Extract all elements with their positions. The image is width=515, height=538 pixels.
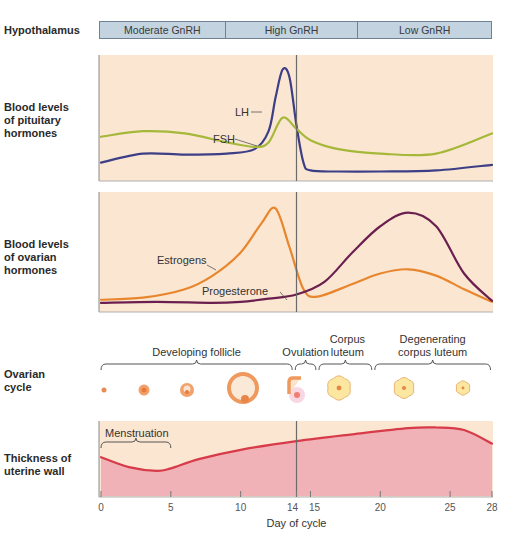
degenerating-corpus-luteum-icon bbox=[394, 377, 414, 398]
stage-label: Developing follicle bbox=[152, 346, 241, 358]
stage-label: Corpus bbox=[330, 333, 366, 345]
stage-label: Ovulation bbox=[282, 346, 328, 358]
estrogens-label: Estrogens bbox=[157, 254, 207, 266]
progesterone-label: Progesterone bbox=[202, 285, 268, 297]
stage-brace bbox=[375, 360, 491, 370]
stage-label: corpus luteum bbox=[398, 346, 467, 358]
stage-label: Degenerating bbox=[400, 333, 466, 345]
x-tick-label: 15 bbox=[309, 502, 321, 513]
x-tick-label: 28 bbox=[486, 502, 498, 513]
menstruation-label: Menstruation bbox=[105, 427, 169, 439]
fsh-label: FSH bbox=[213, 133, 235, 145]
stage-brace bbox=[101, 360, 292, 370]
primordial-follicle-icon bbox=[102, 388, 107, 393]
x-tick-label: 20 bbox=[375, 502, 387, 513]
corpus-luteum-icon bbox=[328, 376, 351, 400]
x-tick-label: 0 bbox=[98, 502, 104, 513]
cycle-diagram: 05101415202528Day of cycle Developing fo… bbox=[0, 0, 515, 538]
x-tick-label: 10 bbox=[235, 502, 247, 513]
x-tick-label: 25 bbox=[445, 502, 457, 513]
stage-brace bbox=[319, 360, 372, 370]
corpus-albicans-icon bbox=[456, 381, 469, 395]
stage-brace bbox=[295, 360, 316, 370]
lh-label: LH bbox=[235, 106, 249, 118]
x-tick-label: 5 bbox=[168, 502, 174, 513]
x-axis-label: Day of cycle bbox=[267, 517, 327, 529]
x-tick-label: 14 bbox=[287, 502, 299, 513]
stage-label: luteum bbox=[331, 346, 364, 358]
